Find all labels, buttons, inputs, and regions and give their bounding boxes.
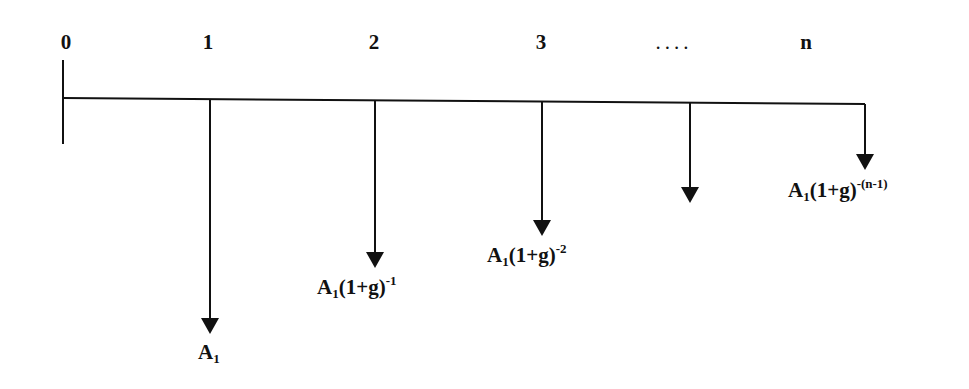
label-base: A bbox=[198, 340, 213, 364]
period-label-n: n bbox=[800, 30, 812, 55]
cash-flow-arrow-ellipsis bbox=[681, 103, 699, 203]
cash-flow-label-n: A1(1+g)-(n-1) bbox=[788, 176, 888, 205]
period-label-3: 3 bbox=[536, 30, 547, 55]
label-exponent: -1 bbox=[386, 273, 397, 288]
label-base: A bbox=[487, 243, 502, 267]
label-exponent: -(n-1) bbox=[857, 176, 888, 191]
cash-flow-arrow-3 bbox=[533, 102, 551, 236]
cash-flow-arrow-n bbox=[856, 104, 874, 170]
period-label-2: 2 bbox=[369, 30, 380, 55]
time-axis bbox=[63, 98, 865, 104]
label-growth-factor: (1+g) bbox=[810, 178, 857, 202]
cash-flow-label-1: A1 bbox=[198, 340, 220, 367]
cash-flow-arrow-1 bbox=[201, 100, 219, 334]
cash-flow-label-2: A1(1+g)-1 bbox=[317, 273, 396, 302]
period-label-1: 1 bbox=[203, 30, 214, 55]
period-label-ellipsis: .... bbox=[656, 30, 693, 55]
cash-flow-arrow-2 bbox=[366, 101, 384, 268]
label-subscript: 1 bbox=[213, 351, 220, 366]
label-base: A bbox=[788, 178, 803, 202]
label-growth-factor: (1+g) bbox=[509, 243, 556, 267]
label-exponent: -2 bbox=[556, 241, 567, 256]
label-base: A bbox=[317, 275, 332, 299]
period-label-0: 0 bbox=[61, 30, 72, 55]
label-growth-factor: (1+g) bbox=[339, 275, 386, 299]
cash-flow-label-3: A1(1+g)-2 bbox=[487, 241, 566, 270]
